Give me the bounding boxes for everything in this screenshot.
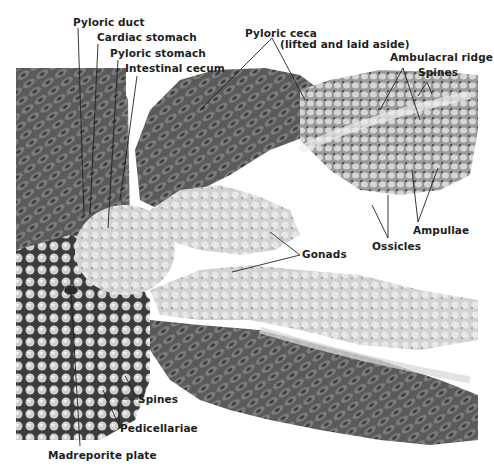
label-pedicellariae: Pedicellariae bbox=[120, 422, 198, 434]
label-madreporite-plate: Madreporite plate bbox=[48, 449, 157, 461]
upper-right-arm bbox=[300, 70, 478, 195]
label-intestinal-cecum: Intestinal cecum bbox=[125, 62, 225, 74]
label-pyloric-stomach: Pyloric stomach bbox=[110, 47, 206, 59]
label-ossicles: Ossicles bbox=[372, 240, 421, 252]
stomach-center bbox=[75, 205, 175, 295]
label-ambulacral-ridge: Ambulacral ridge bbox=[390, 51, 493, 63]
label-pyloric-ceca-note: (lifted and laid aside) bbox=[280, 38, 410, 50]
label-spines-bottom: Spines bbox=[138, 393, 178, 405]
label-spines-top: Spines bbox=[418, 66, 458, 78]
label-ampullae: Ampullae bbox=[413, 224, 469, 236]
label-gonads: Gonads bbox=[302, 248, 347, 260]
sea-star-dissection-figure: Pyloric duct Cardiac stomach Pyloric sto… bbox=[0, 0, 494, 476]
label-cardiac-stomach: Cardiac stomach bbox=[97, 31, 197, 43]
label-pyloric-duct: Pyloric duct bbox=[73, 16, 145, 28]
